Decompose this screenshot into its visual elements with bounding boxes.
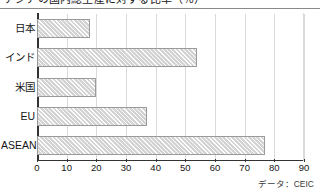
x-tick-label: 0 (34, 162, 39, 173)
x-tick-label: 10 (61, 162, 72, 173)
x-tick-mark (37, 159, 38, 162)
chart-title: アジアの国内総生産に対する比率（％） (4, 0, 206, 6)
x-tick-label: 60 (210, 162, 221, 173)
x-axis-tick-labels: 0102030405060708090 (0, 162, 320, 176)
x-tick-label: 40 (150, 162, 161, 173)
category-label: 米国 (1, 78, 35, 97)
x-tick-mark (126, 159, 127, 162)
x-tick-mark (185, 159, 186, 162)
x-tick-mark (274, 159, 275, 162)
y-axis-category-labels: 日本インド米国EUASEAN (0, 14, 35, 160)
category-label: ASEAN (1, 136, 35, 155)
x-tick-mark (215, 159, 216, 162)
x-tick-label: 30 (121, 162, 132, 173)
bar (37, 48, 197, 67)
source-note: データ：CEIC (258, 177, 314, 189)
chart-title-clipped: アジアの国内総生産に対する比率（％） (0, 0, 320, 8)
bar (37, 78, 96, 97)
bar (37, 107, 147, 126)
x-tick-label: 80 (269, 162, 280, 173)
x-axis-line (37, 160, 304, 161)
gridline (274, 14, 275, 160)
bar (37, 136, 265, 155)
x-tick-label: 70 (239, 162, 250, 173)
x-tick-label: 20 (91, 162, 102, 173)
x-tick-mark (156, 159, 157, 162)
bar-chart: アジアの国内総生産に対する比率（％） 日本インド米国EUASEAN 010203… (0, 0, 320, 193)
title-divider (0, 8, 320, 9)
plot-area (37, 14, 304, 160)
bar (37, 19, 90, 38)
x-tick-mark (245, 159, 246, 162)
x-tick-label: 50 (180, 162, 191, 173)
x-tick-mark (304, 159, 305, 162)
category-label: EU (1, 107, 35, 126)
x-tick-label: 90 (299, 162, 310, 173)
category-label: 日本 (1, 19, 35, 38)
gridline (304, 14, 305, 160)
x-tick-mark (67, 159, 68, 162)
category-label: インド (1, 48, 35, 67)
x-tick-mark (96, 159, 97, 162)
